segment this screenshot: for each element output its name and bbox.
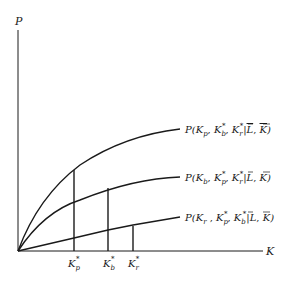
curve-kb (18, 177, 180, 251)
svg-text:P(Kb, Kp*, Kr*|L, K): P(Kb, Kp*, Kr*|L, K) (184, 170, 271, 186)
x-axis-label: K (265, 245, 275, 258)
curve-label-kp: P(Kp, Kb*, Kr*|L, K) (184, 122, 271, 138)
tick-label-kp-star: Kp* (67, 255, 80, 272)
curve-label-kb: P(Kb, Kp*, Kr*|L, K) (184, 170, 271, 186)
curve-label-kr: P(Kr , Kp*, Kb*|L, K) (184, 210, 274, 226)
svg-text:P(Kr , Kp*, Kb*|L, K): P(Kr , Kp*, Kb*|L, K) (184, 210, 274, 226)
tick-label-kr-star: Kr* (127, 255, 140, 272)
tick-label-kb-star: Kb* (102, 255, 115, 272)
svg-text:P(Kp, Kb*, Kr*|L, K): P(Kp, Kb*, Kr*|L, K) (184, 122, 271, 138)
y-axis-label: P (14, 15, 23, 28)
production-diagram: P K Kp* Kb* Kr* P(Kp, Kb*, Kr*|L, K) P(K… (0, 0, 293, 292)
